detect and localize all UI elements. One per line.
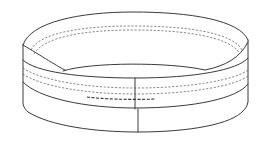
bottom-edge: [28, 111, 243, 132]
inner-opening: [63, 42, 248, 71]
right-side-edge: [243, 40, 248, 111]
band-drawing: [0, 0, 265, 143]
stitch-front-bold: [87, 97, 155, 99]
inner-rim-back: [23, 45, 65, 70]
outer-rim-back: [23, 12, 248, 45]
left-side-edge: [23, 45, 28, 112]
stitch-back-2: [34, 30, 240, 54]
stitch-back-1: [31, 26, 242, 50]
band-illustration: [0, 0, 265, 143]
